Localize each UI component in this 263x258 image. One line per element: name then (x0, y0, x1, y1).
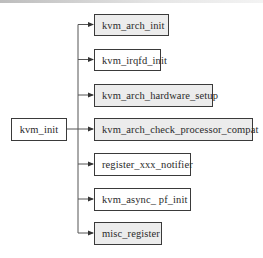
node-register-xxx-notifier: register_xxx_notifier (94, 153, 191, 176)
node-kvm-arch-init: kvm_arch_init (94, 14, 169, 36)
node-label: kvm_arch_hardware_setup (102, 90, 218, 101)
node-label: kvm_arch_init (102, 20, 165, 31)
node-label: kvm_arch_check_processor_compat (102, 124, 258, 135)
root-node-kvm-init: kvm_init (11, 118, 67, 141)
node-label: register_xxx_notifier (102, 159, 193, 170)
node-kvm-async-pf-init: kvm_async_ pf_init (94, 188, 191, 211)
node-kvm-irqfd-init: kvm_irqfd_init (94, 49, 161, 71)
node-label: kvm_irqfd_init (102, 55, 167, 66)
node-label: kvm_async_ pf_init (102, 194, 188, 205)
node-label: misc_register (102, 228, 160, 239)
root-node-label: kvm_init (20, 124, 59, 135)
node-misc-register: misc_register (94, 222, 162, 245)
node-kvm-arch-hardware-setup: kvm_arch_hardware_setup (94, 84, 213, 107)
node-kvm-arch-check-processor-compat: kvm_arch_check_processor_compat (94, 118, 253, 141)
